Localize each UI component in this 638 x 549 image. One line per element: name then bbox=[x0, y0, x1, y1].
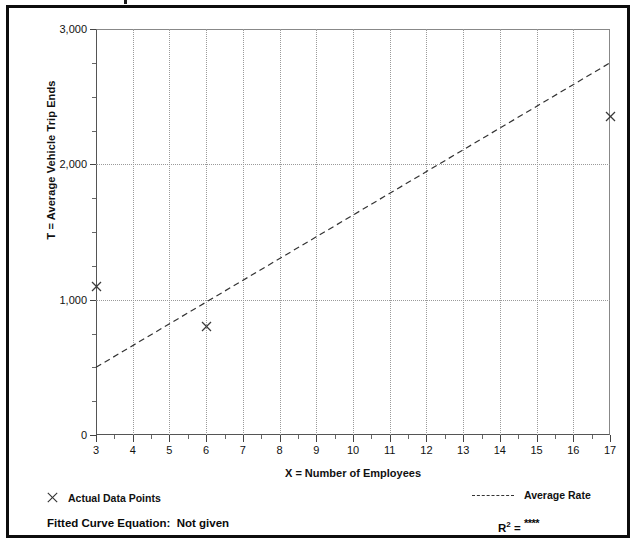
x-tick-label: 11 bbox=[370, 444, 410, 456]
x-tick-major bbox=[610, 435, 611, 442]
x-tick-major bbox=[390, 435, 391, 442]
x-tick-minor bbox=[408, 435, 409, 439]
r-squared-value: R2 = **** bbox=[498, 517, 539, 534]
x-tick-label: 10 bbox=[333, 444, 373, 456]
x-tick-major bbox=[169, 435, 170, 442]
x-tick-minor bbox=[555, 435, 556, 439]
r-squared-equals: = bbox=[511, 522, 524, 534]
x-tick-minor bbox=[592, 435, 593, 439]
x-tick-label: 15 bbox=[517, 444, 557, 456]
y-tick-label: 0 bbox=[35, 430, 87, 441]
x-tick-minor bbox=[114, 435, 115, 439]
legend-label-actual-data-points: Actual Data Points bbox=[68, 492, 161, 504]
x-tick-label: 12 bbox=[406, 444, 446, 456]
x-tick-major bbox=[537, 435, 538, 442]
x-tick-label: 17 bbox=[590, 444, 630, 456]
x-tick-major bbox=[463, 435, 464, 442]
y-tick-label: 2,000 bbox=[35, 159, 87, 170]
x-tick-label: 16 bbox=[553, 444, 593, 456]
x-tick-major bbox=[280, 435, 281, 442]
chart-legend: Actual Data Points Average Rate bbox=[0, 489, 638, 509]
x-tick-minor bbox=[261, 435, 262, 439]
plot-area: 01,0002,0003,000 34567891011121314151617 bbox=[96, 29, 610, 435]
x-tick-minor bbox=[225, 435, 226, 439]
x-tick-label: 5 bbox=[149, 444, 189, 456]
x-tick-label: 8 bbox=[260, 444, 300, 456]
x-tick-major bbox=[573, 435, 574, 442]
x-tick-label: 14 bbox=[480, 444, 520, 456]
data-point-marker bbox=[605, 111, 616, 122]
x-tick-label: 3 bbox=[76, 444, 116, 456]
dashed-line-icon bbox=[472, 495, 514, 496]
x-tick-major bbox=[316, 435, 317, 442]
x-tick-minor bbox=[518, 435, 519, 439]
x-tick-major bbox=[500, 435, 501, 442]
x-tick-major bbox=[243, 435, 244, 442]
x-tick-label: 4 bbox=[113, 444, 153, 456]
fitted-curve-equation: Fitted Curve Equation: Not given bbox=[47, 517, 229, 529]
x-tick-minor bbox=[335, 435, 336, 439]
x-tick-label: 13 bbox=[443, 444, 483, 456]
average-rate-trendline bbox=[96, 29, 610, 435]
chart-page: T = Average Vehicle Trip Ends 01,0002,00… bbox=[0, 0, 638, 549]
legend-item-average-rate: Average Rate bbox=[472, 489, 591, 501]
x-tick-major bbox=[353, 435, 354, 442]
data-point-marker bbox=[201, 321, 212, 332]
r-squared-number: **** bbox=[524, 517, 539, 529]
legend-label-average-rate: Average Rate bbox=[524, 489, 591, 501]
x-tick-label: 6 bbox=[186, 444, 226, 456]
x-tick-minor bbox=[371, 435, 372, 439]
x-axis-title: X = Number of Employees bbox=[96, 467, 610, 479]
x-tick-major bbox=[96, 435, 97, 442]
legend-item-actual-data-points: Actual Data Points bbox=[47, 489, 161, 507]
y-tick-label: 1,000 bbox=[35, 295, 87, 306]
data-point-marker bbox=[91, 281, 102, 292]
y-tick-label: 3,000 bbox=[35, 24, 87, 35]
chart-footer: Fitted Curve Equation: Not given R2 = **… bbox=[0, 517, 638, 539]
x-tick-minor bbox=[445, 435, 446, 439]
top-edge-mark bbox=[124, 0, 127, 4]
x-tick-minor bbox=[188, 435, 189, 439]
x-tick-label: 9 bbox=[296, 444, 336, 456]
x-tick-major bbox=[206, 435, 207, 442]
x-tick-minor bbox=[151, 435, 152, 439]
x-tick-major bbox=[426, 435, 427, 442]
x-marker-icon bbox=[47, 489, 58, 507]
x-tick-minor bbox=[298, 435, 299, 439]
x-tick-minor bbox=[482, 435, 483, 439]
x-tick-label: 7 bbox=[223, 444, 263, 456]
x-tick-major bbox=[133, 435, 134, 442]
